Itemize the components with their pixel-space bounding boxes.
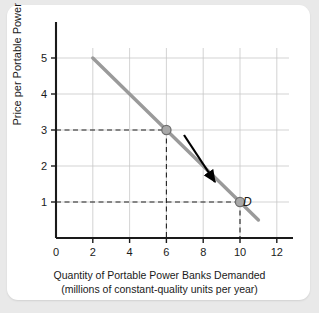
x-axis-title: Quantity of Portable Power Banks Demande…: [0, 268, 319, 296]
y-tick-label: 5: [41, 53, 47, 64]
y-tick-label: 1: [41, 197, 47, 208]
x-tick-label: 2: [90, 247, 96, 258]
demand-curve-label: D: [243, 196, 252, 208]
x-tick-label: 8: [200, 247, 206, 258]
demand-curve-line: [93, 58, 259, 220]
dashed-guide-lines: [56, 130, 240, 238]
y-tick-label: 3: [41, 125, 47, 136]
movement-arrow: [184, 135, 215, 182]
data-point-marker: [162, 125, 171, 134]
y-tick-label: 2: [41, 161, 47, 172]
x-tick-label: 10: [234, 247, 246, 258]
x-tick-label: 0: [53, 247, 59, 258]
x-tick-label: 12: [271, 247, 283, 258]
demand-curve-plot: [0, 0, 319, 313]
y-tick-label: 4: [41, 89, 47, 100]
y-axis-title: Price per Portable Power Bank ($): [12, 0, 23, 142]
x-tick-label: 4: [127, 247, 133, 258]
x-axis-title-line2: (millions of constant-quality units per …: [0, 282, 319, 296]
chart-figure: 5 4 3 2 1 0 2 4 6 8 10 12 D Price per Po…: [0, 0, 319, 313]
x-tick-label: 6: [163, 247, 169, 258]
x-axis-title-line1: Quantity of Portable Power Banks Demande…: [0, 268, 319, 282]
